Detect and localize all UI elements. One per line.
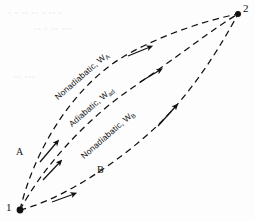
branch-label-a: A [16, 146, 23, 157]
state-1-dot [17, 207, 24, 214]
state-2-dot [235, 11, 241, 17]
thermodynamic-process-diagram: • • •• •• • •• • •• • •• ••• •• ••• [0, 0, 255, 222]
state-1-label: 1 [6, 201, 12, 213]
branch-label-b: B [97, 164, 104, 175]
state-2-label: 2 [243, 2, 249, 14]
